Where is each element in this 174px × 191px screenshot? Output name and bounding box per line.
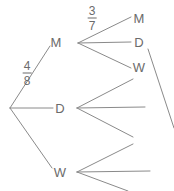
node-label-d-level2: D: [134, 36, 143, 49]
fraction-numerator: 4: [23, 60, 32, 72]
root-branches: [10, 46, 53, 168]
branch-m-to-w: [78, 43, 131, 68]
m-node-branches: [78, 17, 131, 68]
w-node-branches: [77, 144, 150, 191]
fraction-label-3-7: 3 7: [88, 5, 97, 32]
fraction-numerator: 3: [88, 5, 97, 17]
branch-w-to-1: [77, 144, 133, 172]
node-label-d-level1: D: [55, 102, 64, 115]
fraction-denominator: 8: [23, 75, 32, 87]
probability-tree-diagram: M D W M D W 4 8 3 7: [0, 0, 174, 191]
branch-m-to-d: [78, 42, 131, 43]
branch-d-to-2: [77, 107, 145, 108]
node-label-w-level2: W: [133, 61, 145, 74]
branch-d-to-3: [77, 108, 133, 137]
branch-w-to-3: [77, 172, 128, 191]
branch-root-to-w: [10, 108, 52, 168]
node-label-m-level1: M: [51, 36, 62, 49]
branch-d-to-1: [77, 79, 133, 108]
branch-w-to-2: [77, 171, 150, 172]
branch-m-to-m: [78, 17, 131, 43]
branch-outer-long: [148, 49, 174, 128]
cropped-outer-branches: [148, 49, 174, 128]
fraction-label-4-8: 4 8: [23, 60, 32, 87]
fraction-denominator: 7: [88, 20, 97, 32]
d-node-branches: [77, 79, 145, 137]
node-label-w-level1: W: [54, 166, 66, 179]
node-label-m-level2: M: [134, 12, 145, 25]
